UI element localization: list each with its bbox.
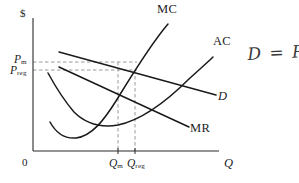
- quantity-label-qm-subscript: m: [117, 162, 123, 170]
- curve-label-demand: D: [218, 90, 227, 103]
- y-axis-label: $: [20, 8, 26, 19]
- curve-label-mc: MC: [157, 3, 177, 16]
- curve-label-ac: AC: [213, 35, 231, 48]
- diagram-canvas: [0, 0, 299, 183]
- handwritten-annotation: D = P: [247, 43, 299, 63]
- x-axis-label: Q: [224, 157, 233, 170]
- curve-demand: [59, 52, 216, 95]
- curve-label-mr: MR: [190, 122, 210, 135]
- quantity-label-qreg: Qreg: [127, 158, 145, 170]
- curve-mc: [50, 24, 168, 138]
- origin-label: 0: [22, 157, 28, 168]
- curve-ac: [48, 57, 213, 126]
- price-label-preg-subscript: reg: [17, 69, 27, 77]
- monopoly-regulation-figure: $ 0 Q Pm Preg Qm Qreg MC AC D MR D = P: [0, 0, 299, 183]
- quantity-label-qreg-subscript: reg: [135, 162, 145, 170]
- price-label-preg-base: P: [10, 64, 17, 76]
- price-label-preg: Preg: [10, 65, 27, 77]
- quantity-label-qm: Qm: [109, 158, 123, 170]
